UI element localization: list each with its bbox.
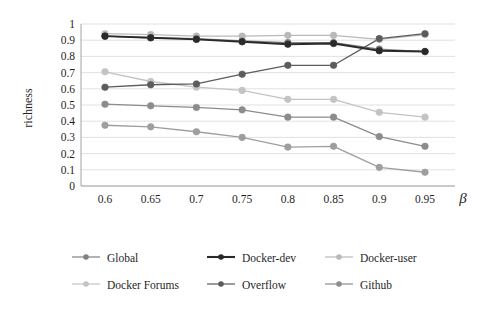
data-point [330, 96, 337, 103]
data-point [422, 169, 429, 176]
legend-label: Docker-dev [242, 252, 296, 264]
data-point [239, 134, 246, 141]
x-tick-label: 0.8 [281, 193, 296, 205]
x-tick-label: 0.95 [415, 193, 435, 205]
legend-item-overflow[interactable]: Overflow [207, 279, 287, 291]
data-point [285, 114, 292, 121]
y-axis-tick-labels: 00.10.20.30.40.50.60.70.80.91 [61, 18, 76, 192]
data-point [147, 124, 154, 131]
data-point [376, 47, 383, 54]
chart-legend: GlobalDocker-devDocker-userDocker Forums… [72, 252, 417, 291]
legend-label: Github [360, 279, 392, 291]
data-point [102, 33, 109, 40]
y-tick-label: 0.4 [61, 115, 76, 127]
x-tick-label: 0.65 [141, 193, 161, 205]
x-tick-label: 0.85 [324, 193, 344, 205]
data-point [330, 40, 337, 47]
legend-swatch-marker [336, 254, 342, 260]
data-point [102, 101, 109, 108]
y-tick-label: 0.7 [61, 67, 76, 79]
x-tick-label: 0.75 [232, 193, 252, 205]
legend-item-docker-dev[interactable]: Docker-dev [207, 252, 296, 264]
data-point [147, 81, 154, 88]
y-tick-label: 0 [69, 180, 75, 192]
data-point [193, 128, 200, 135]
data-point [422, 30, 429, 37]
x-axis-title: β [458, 190, 467, 206]
y-tick-label: 0.3 [61, 131, 76, 143]
data-point [193, 104, 200, 111]
legend-label: Docker Forums [107, 279, 179, 291]
legend-item-github[interactable]: Github [325, 279, 392, 291]
legend-swatch-marker [83, 281, 89, 287]
data-point [285, 96, 292, 103]
data-point [376, 35, 383, 42]
richness-vs-beta-line-chart: 00.10.20.30.40.50.60.70.80.91 0.60.650.7… [0, 0, 487, 312]
data-point [147, 103, 154, 110]
data-point [376, 164, 383, 171]
legend-swatch-marker [336, 281, 342, 287]
y-tick-label: 0.2 [61, 148, 76, 160]
data-point [193, 36, 200, 43]
data-point [239, 71, 246, 78]
data-point [422, 143, 429, 150]
data-point [239, 39, 246, 46]
legend-swatch-marker [218, 281, 224, 287]
data-point [422, 114, 429, 121]
legend-swatch-marker [83, 254, 89, 260]
legend-item-docker-forums[interactable]: Docker Forums [72, 279, 179, 291]
data-point [285, 62, 292, 69]
legend-item-global[interactable]: Global [72, 252, 138, 264]
y-tick-label: 0.5 [61, 99, 76, 111]
legend-label: Overflow [242, 279, 287, 291]
x-tick-label: 0.6 [98, 193, 113, 205]
data-point [147, 34, 154, 41]
x-tick-label: 0.9 [372, 193, 387, 205]
data-point [102, 68, 109, 75]
data-point [376, 133, 383, 140]
data-point [330, 143, 337, 150]
y-axis-title: richness [21, 88, 35, 128]
y-tick-label: 1 [69, 18, 75, 30]
legend-label: Global [107, 252, 138, 264]
data-point [330, 62, 337, 69]
y-tick-label: 0.9 [61, 34, 76, 46]
data-point [285, 41, 292, 48]
data-point [330, 114, 337, 121]
data-point [285, 144, 292, 151]
legend-label: Docker-user [360, 252, 417, 264]
data-point [376, 109, 383, 116]
legend-item-docker-user[interactable]: Docker-user [325, 252, 417, 264]
x-tick-label: 0.7 [189, 193, 204, 205]
data-point [239, 87, 246, 94]
y-tick-label: 0.1 [61, 164, 76, 176]
data-point [422, 48, 429, 55]
x-axis-tick-labels: 0.60.650.70.750.80.850.90.95 [98, 193, 436, 205]
series-lines-group [105, 34, 425, 173]
y-tick-label: 0.6 [61, 83, 76, 95]
y-tick-label: 0.8 [61, 50, 76, 62]
data-point [193, 81, 200, 88]
chart-figure: 00.10.20.30.40.50.60.70.80.91 0.60.650.7… [0, 0, 487, 312]
data-point [239, 107, 246, 114]
data-point [330, 32, 337, 39]
legend-swatch-marker [218, 254, 224, 260]
data-point [102, 122, 109, 129]
data-point [102, 84, 109, 91]
data-point [285, 32, 292, 39]
